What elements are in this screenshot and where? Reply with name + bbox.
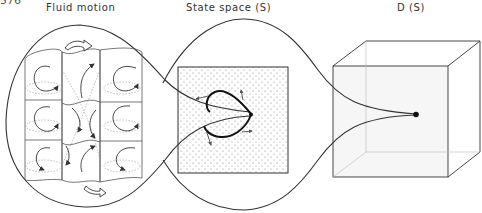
fluid-cells	[25, 48, 142, 182]
flow-arrow-bottom	[84, 186, 106, 197]
attractor-point	[413, 112, 419, 118]
cube-d-space	[333, 41, 480, 177]
diagram-canvas	[0, 0, 482, 213]
fixed-point	[249, 113, 253, 117]
vortex-arrows	[34, 64, 138, 172]
state-space-square	[178, 67, 288, 173]
